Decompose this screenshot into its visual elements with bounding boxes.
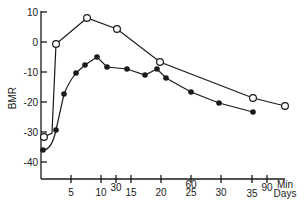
open-point: [84, 15, 91, 22]
filled-point: [104, 64, 110, 70]
x-day-10: 10: [95, 187, 107, 198]
series-filled-circles: [40, 54, 256, 153]
open-point: [282, 103, 289, 110]
x-day-5: 5: [68, 187, 74, 198]
filled-point: [61, 91, 67, 97]
filled-point: [94, 54, 100, 60]
filled-point: [124, 66, 130, 72]
x-min-90: 90: [261, 182, 273, 193]
filled-point: [40, 147, 46, 153]
x-day-15: 15: [125, 187, 137, 198]
x-min-60: 60: [185, 179, 197, 190]
open-point: [114, 26, 121, 33]
x-day-35: 35: [246, 188, 258, 199]
x-min-labels: 30 60 90 Min: [110, 179, 293, 193]
filled-point: [154, 66, 160, 72]
bmr-chart: 10 0 -10 -20 -30 -40 BMR 5 10 15 20 25 3…: [0, 0, 304, 207]
y-axis-title: BMR: [7, 87, 18, 109]
open-point: [41, 134, 48, 141]
x-min-unit: Min: [277, 179, 293, 190]
open-point: [250, 95, 257, 102]
filled-point: [250, 109, 256, 115]
y-tick-minus30: -30: [24, 127, 39, 138]
x-day-20: 20: [155, 187, 167, 198]
y-tick-minus20: -20: [24, 97, 39, 108]
filled-point: [82, 62, 88, 68]
y-tick-0: 0: [32, 37, 38, 48]
axes: [41, 11, 285, 183]
filled-point: [73, 70, 79, 76]
x-day-30: 30: [215, 187, 227, 198]
filled-point: [216, 100, 222, 106]
x-min-30: 30: [110, 182, 122, 193]
y-tick-minus10: -10: [24, 67, 39, 78]
filled-point: [142, 72, 148, 78]
y-tick-minus40: -40: [24, 157, 39, 168]
filled-point: [188, 89, 194, 95]
filled-point: [53, 127, 59, 133]
y-tick-labels: 10 0 -10 -20 -30 -40: [24, 7, 39, 168]
open-point: [53, 41, 60, 48]
y-tick-10: 10: [27, 7, 39, 18]
open-point: [157, 59, 164, 66]
filled-point: [163, 75, 169, 81]
